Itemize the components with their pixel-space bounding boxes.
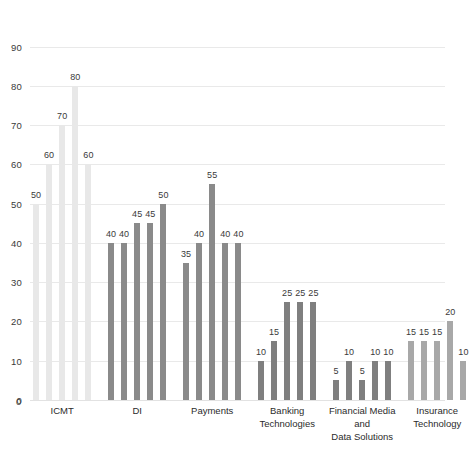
bar[interactable] [447,321,453,400]
bar[interactable] [33,204,39,400]
bar-value-label: 15 [406,327,416,337]
y-axis-zero-label: 0 [16,396,21,407]
y-tick-label-70: 70 [11,120,22,131]
bar[interactable] [108,243,114,400]
bar[interactable] [372,361,378,400]
bar-value-label: 45 [132,209,142,219]
bar-value-label: 5 [360,366,365,376]
x-axis-label-0: ICMT [51,404,74,417]
bar-value-label: 15 [269,327,279,337]
y-tick-label-60: 60 [11,159,22,170]
bar[interactable] [258,361,264,400]
bar-value-label: 10 [256,347,266,357]
plot-area: 5060708060404045455035405540401015252525… [30,32,445,400]
bar-value-label: 10 [370,347,380,357]
bar-value-label: 10 [383,347,393,357]
bar[interactable] [147,223,153,400]
bar-value-label: 10 [458,347,468,357]
bar-value-label: 5 [333,366,338,376]
bar[interactable] [235,243,241,400]
bar-value-label: 40 [220,229,230,239]
bar-value-label: 25 [295,288,305,298]
bar[interactable] [284,302,290,400]
x-axis-label-4: Financial Media and Data Solutions [321,404,404,443]
bar[interactable] [85,164,91,400]
bar[interactable] [160,204,166,400]
bar-value-label: 40 [119,229,129,239]
bar[interactable] [72,86,78,400]
bar-value-label: 70 [57,111,67,121]
bar[interactable] [333,380,339,400]
bar[interactable] [297,302,303,400]
x-axis-label-5: Insurance Technology [413,404,461,430]
bar-value-label: 60 [44,150,54,160]
bar-value-label: 25 [282,288,292,298]
y-tick-label-20: 20 [11,316,22,327]
bar[interactable] [385,361,391,400]
bar-value-label: 40 [194,229,204,239]
bars-layer: 5060708060404045455035405540401015252525… [30,32,445,400]
bar[interactable] [421,341,427,400]
bar-value-label: 25 [308,288,318,298]
y-axis: 0102030405060708090 [0,32,26,400]
x-axis-label-2: Payments [191,404,233,417]
y-tick-label-80: 80 [11,80,22,91]
bar[interactable] [460,361,466,400]
bar[interactable] [408,341,414,400]
bar[interactable] [209,184,215,400]
bar-value-label: 50 [31,190,41,200]
bar[interactable] [196,243,202,400]
bar[interactable] [121,243,127,400]
y-tick-label-30: 30 [11,277,22,288]
bar-value-label: 50 [158,190,168,200]
bar-value-label: 40 [233,229,243,239]
bar-value-label: 20 [445,307,455,317]
gridline-0 [30,400,445,401]
bar-value-label: 60 [83,150,93,160]
bar-value-label: 40 [106,229,116,239]
bar-value-label: 55 [207,170,217,180]
bar-value-label: 10 [344,347,354,357]
bar[interactable] [271,341,277,400]
bar[interactable] [134,223,140,400]
bar[interactable] [310,302,316,400]
bar-value-label: 15 [419,327,429,337]
y-tick-label-10: 10 [11,355,22,366]
x-axis-label-3: Banking Technologies [259,404,314,430]
bar[interactable] [59,125,65,400]
bar-value-label: 45 [145,209,155,219]
x-axis-category-labels: ICMTDIPaymentsBanking TechnologiesFinanc… [30,404,445,452]
y-tick-label-40: 40 [11,237,22,248]
bar-value-label: 15 [432,327,442,337]
bar-value-label: 35 [181,249,191,259]
bar-value-label: 80 [70,72,80,82]
bar[interactable] [434,341,440,400]
y-tick-label-90: 90 [11,41,22,52]
bar[interactable] [46,164,52,400]
x-axis-label-1: DI [132,404,142,417]
bar[interactable] [183,263,189,400]
bar[interactable] [222,243,228,400]
bar[interactable] [346,361,352,400]
bar[interactable] [359,380,365,400]
y-tick-label-50: 50 [11,198,22,209]
